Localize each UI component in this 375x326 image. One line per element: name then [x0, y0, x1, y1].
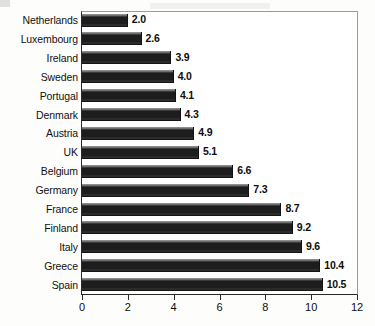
x-tick-mark [311, 295, 312, 300]
category-label: Spain [52, 279, 78, 291]
bar-row: France8.7 [0, 200, 375, 219]
bar-row: Denmark4.3 [0, 106, 375, 125]
bar [82, 32, 142, 45]
x-tick-mark [265, 295, 266, 300]
bar [82, 259, 320, 272]
bar-value-label: 4.0 [178, 70, 192, 82]
x-tick-label: 6 [216, 301, 222, 313]
bar-row: Sweden4.0 [0, 68, 375, 87]
bar [82, 70, 174, 83]
bar-value-label: 4.3 [185, 108, 199, 120]
x-axis: 024681012 [0, 295, 375, 326]
bar-fill [82, 184, 249, 197]
bar-fill [82, 278, 323, 291]
category-label: UK [64, 146, 78, 158]
category-label: Portugal [40, 90, 78, 102]
bar-value-label: 10.5 [327, 278, 347, 290]
bar-fill [82, 70, 174, 83]
bar [82, 240, 302, 253]
category-label: Germany [36, 184, 78, 196]
category-label: Netherlands [22, 14, 78, 26]
x-tick-label: 0 [79, 301, 85, 313]
bar-row: Germany7.3 [0, 181, 375, 200]
bar-row: Greece10.4 [0, 257, 375, 276]
bar [82, 221, 293, 234]
category-label: Ireland [47, 52, 78, 64]
bar-fill [82, 259, 320, 272]
bar-fill [82, 32, 142, 45]
bar [82, 278, 323, 291]
bar-chart: Netherlands2.0Luxembourg2.6Ireland3.9Swe… [0, 0, 375, 326]
bar [82, 51, 171, 64]
category-label: Belgium [41, 165, 78, 177]
bar-row: Belgium6.6 [0, 162, 375, 181]
bar-row: UK5.1 [0, 143, 375, 162]
bar-fill [82, 14, 128, 27]
category-label: Finland [44, 222, 78, 234]
bar-fill [82, 203, 281, 216]
x-tick-mark [174, 295, 175, 300]
bar-value-label: 2.6 [146, 32, 160, 44]
bar-value-label: 10.4 [324, 259, 344, 271]
bar-value-label: 4.1 [180, 89, 194, 101]
bar-value-label: 7.3 [253, 183, 267, 195]
bar-row: Italy9.6 [0, 238, 375, 257]
x-tick-mark [128, 295, 129, 300]
bar-fill [82, 165, 233, 178]
x-tick-mark [220, 295, 221, 300]
category-label: France [46, 203, 78, 215]
bar [82, 146, 199, 159]
bar-row: Luxembourg2.6 [0, 30, 375, 49]
bar-row: Netherlands2.0 [0, 11, 375, 30]
bar-fill [82, 89, 176, 102]
bar-fill [82, 108, 181, 121]
bar-fill [82, 240, 302, 253]
bar-value-label: 2.0 [132, 13, 146, 25]
bar-row: Austria4.9 [0, 124, 375, 143]
bar-fill [82, 127, 194, 140]
bar-value-label: 9.2 [297, 221, 311, 233]
bar-value-label: 6.6 [237, 164, 251, 176]
x-tick-label: 2 [125, 301, 131, 313]
bar-row: Spain10.5 [0, 276, 375, 295]
category-label: Denmark [36, 109, 78, 121]
bar-row: Finland9.2 [0, 219, 375, 238]
bar-value-label: 5.1 [203, 145, 217, 157]
scan-artifact-secondary [150, 3, 270, 9]
x-tick-label: 4 [171, 301, 177, 313]
x-tick-label: 12 [351, 301, 363, 313]
category-label: Sweden [41, 71, 78, 83]
bar [82, 127, 194, 140]
bar [82, 108, 181, 121]
x-tick-label: 10 [305, 301, 317, 313]
bar [82, 14, 128, 27]
scan-artifact [0, 0, 10, 7]
x-tick-mark [357, 295, 358, 300]
category-label: Italy [59, 241, 78, 253]
bar [82, 184, 249, 197]
x-tick-label: 8 [262, 301, 268, 313]
bar-value-label: 9.6 [306, 240, 320, 252]
x-tick-mark [82, 295, 83, 300]
bar-rows: Netherlands2.0Luxembourg2.6Ireland3.9Swe… [0, 11, 375, 295]
bar-value-label: 8.7 [285, 202, 299, 214]
bar-row: Portugal4.1 [0, 87, 375, 106]
bar [82, 203, 281, 216]
bar-value-label: 4.9 [198, 126, 212, 138]
category-label: Luxembourg [21, 33, 78, 45]
bar [82, 165, 233, 178]
category-label: Greece [44, 260, 78, 272]
bar-row: Ireland3.9 [0, 49, 375, 68]
bar-value-label: 3.9 [175, 51, 189, 63]
bar-fill [82, 146, 199, 159]
category-label: Austria [46, 127, 78, 139]
bar-fill [82, 221, 293, 234]
bar [82, 89, 176, 102]
bar-fill [82, 51, 171, 64]
